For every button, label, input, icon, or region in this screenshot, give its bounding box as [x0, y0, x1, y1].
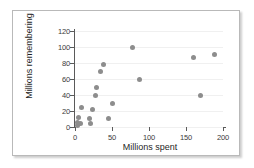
scatter-point: [87, 116, 92, 121]
y-axis-tick: [70, 111, 75, 112]
scatter-point: [198, 93, 203, 98]
scatter-point: [137, 77, 142, 82]
scatter-point: [88, 121, 93, 126]
scatter-point: [110, 101, 115, 106]
scatter-point: [79, 105, 84, 110]
y-axis-tick-label: 0: [50, 123, 70, 132]
y-axis-tick-label: 80: [50, 59, 70, 68]
x-axis-title: Millions spent: [75, 142, 225, 152]
y-axis-tick: [70, 79, 75, 80]
figure-frame: 020406080100120 Millions spent Millions …: [12, 10, 240, 156]
scatter-point: [93, 93, 98, 98]
scatter-point: [76, 115, 81, 120]
x-axis-tick: [149, 127, 150, 131]
y-axis-tick: [70, 95, 75, 96]
gridline: [75, 111, 223, 112]
x-axis-tick: [75, 127, 76, 131]
x-axis-tick-label: 100: [137, 133, 161, 142]
x-axis-tick: [112, 127, 113, 131]
scatter-point: [98, 69, 103, 74]
y-axis-tick-label: 100: [50, 43, 70, 52]
scatter-point: [212, 52, 217, 57]
y-axis-tick: [70, 47, 75, 48]
y-axis-tick-label: 20: [50, 107, 70, 116]
x-axis-tick-label: 0: [63, 133, 87, 142]
y-axis-title: Millions remembering: [24, 6, 34, 106]
scatter-point: [94, 85, 99, 90]
y-axis-tick-label: 40: [50, 91, 70, 100]
x-axis-tick-label: 50: [100, 133, 124, 142]
y-axis-tick-label: 60: [50, 75, 70, 84]
x-axis-tick: [223, 127, 224, 131]
x-axis-tick-label: 200: [211, 133, 235, 142]
x-axis-tick: [186, 127, 187, 131]
x-axis-tick-label: 150: [174, 133, 198, 142]
scatter-point: [106, 116, 111, 121]
gridline: [75, 31, 223, 32]
gridline: [75, 47, 223, 48]
y-axis-tick: [70, 31, 75, 32]
scatter-point: [78, 121, 83, 126]
scatter-point: [191, 55, 196, 60]
scatter-point: [101, 62, 106, 67]
y-axis-tick: [70, 63, 75, 64]
y-axis-tick-label: 120: [50, 27, 70, 36]
plot-area: [75, 31, 223, 127]
scatter-point: [130, 45, 135, 50]
gridline: [75, 63, 223, 64]
gridline: [75, 79, 223, 80]
